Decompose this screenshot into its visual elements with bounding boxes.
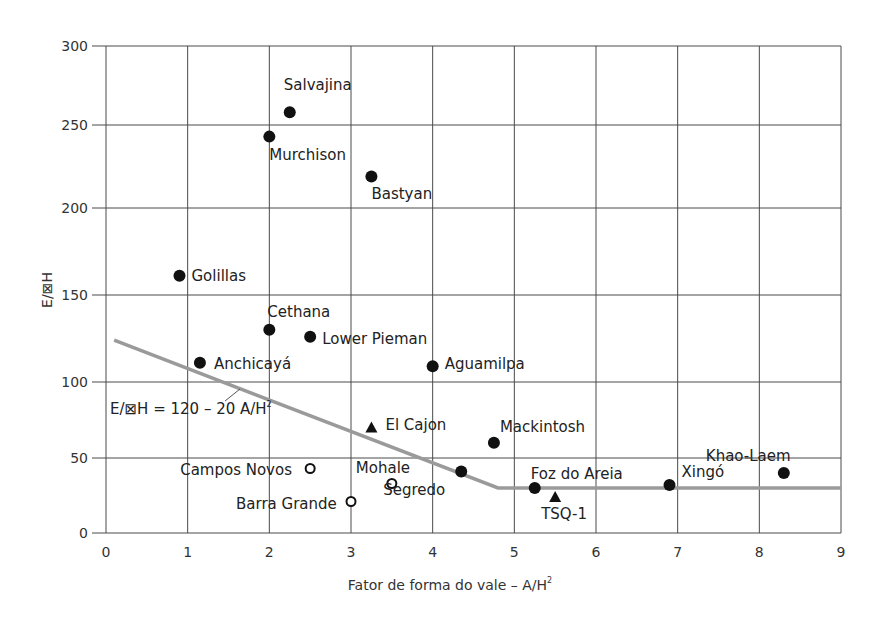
point-xing- <box>664 479 676 491</box>
label-khao-laem: Khao-Laem <box>706 447 791 465</box>
y-tick-label: 150 <box>61 287 88 303</box>
equation-main: E/⊠H = 120 – 20 A/H <box>110 400 267 418</box>
label-lower-pieman: Lower Pieman <box>322 330 427 348</box>
label-cethana: Cethana <box>267 303 330 321</box>
y-tick-label: 0 <box>79 525 88 541</box>
point-campos-novos <box>306 464 315 473</box>
annotations: SalvajinaMurchisonBastyanGolillasCethana… <box>180 76 790 523</box>
label-xing-: Xingó <box>682 463 725 481</box>
label-murchison: Murchison <box>269 146 346 164</box>
point-murchison <box>263 131 275 143</box>
label-anchicay-: Anchicayá <box>214 355 291 373</box>
label-salvajina: Salvajina <box>284 76 352 94</box>
x-tick-label: 5 <box>510 544 519 560</box>
label-golillas: Golillas <box>192 267 247 285</box>
y-tick-label: 200 <box>61 200 88 216</box>
label-el-cajon: El Cajon <box>385 416 446 434</box>
point-aguamilpa <box>427 360 439 372</box>
point-tsq-1 <box>549 491 561 502</box>
equation-label: E/⊠H = 120 – 20 A/H2 <box>110 400 272 418</box>
point-bastyan <box>365 170 377 182</box>
label-bastyan: Bastyan <box>371 185 432 203</box>
y-tick-label: 100 <box>61 374 88 390</box>
x-axis-title-sup: 2 <box>547 576 552 585</box>
x-axis-title: Fator de forma do vale – A/H2 <box>348 576 552 593</box>
label-segredo: Segredo <box>383 481 445 499</box>
label-mohale: Mohale <box>356 459 410 477</box>
label-tsq-1: TSQ-1 <box>540 505 587 523</box>
x-tick-label: 7 <box>673 544 682 560</box>
equation-sup: 2 <box>267 400 272 409</box>
axis-ticks: 0123456789050100150200250300 <box>61 38 845 560</box>
data-points <box>174 106 790 506</box>
x-tick-label: 9 <box>837 544 846 560</box>
label-aguamilpa: Aguamilpa <box>445 355 525 373</box>
x-tick-label: 1 <box>183 544 192 560</box>
y-tick-label: 250 <box>61 117 88 133</box>
point-golillas <box>174 270 186 282</box>
x-tick-label: 6 <box>592 544 601 560</box>
x-tick-label: 2 <box>265 544 274 560</box>
point-anchicay- <box>194 357 206 369</box>
point-segredo <box>455 466 467 478</box>
x-tick-label: 0 <box>102 544 111 560</box>
point-lower-pieman <box>304 331 316 343</box>
label-campos-novos: Campos Novos <box>180 461 292 479</box>
y-axis-title: E/⊠H <box>39 272 55 308</box>
point-el-cajon <box>365 422 377 433</box>
point-mackintosh <box>488 437 500 449</box>
label-barra-grande: Barra Grande <box>236 495 337 513</box>
x-axis-title-main: Fator de forma do vale – A/H <box>348 577 547 593</box>
x-tick-label: 4 <box>428 544 437 560</box>
x-tick-label: 3 <box>347 544 356 560</box>
y-tick-label: 50 <box>70 450 88 466</box>
point-foz-do-areia <box>529 482 541 494</box>
point-cethana <box>263 324 275 336</box>
label-mackintosh: Mackintosh <box>500 418 585 436</box>
point-salvajina <box>284 106 296 118</box>
y-tick-label: 300 <box>61 38 88 54</box>
point-khao-laem <box>778 467 790 479</box>
scatter-chart: 0123456789050100150200250300 SalvajinaMu… <box>0 0 881 619</box>
label-foz-do-areia: Foz do Areia <box>531 465 623 483</box>
x-tick-label: 8 <box>755 544 764 560</box>
point-barra-grande <box>347 497 356 506</box>
